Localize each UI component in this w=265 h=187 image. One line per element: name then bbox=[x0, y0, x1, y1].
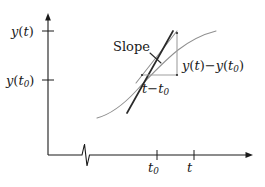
delta-t-label: t−t0 bbox=[142, 82, 169, 97]
glyph-subscript-zero: 0 bbox=[163, 87, 169, 97]
y-axis-label-y-of-t0: y(t0) bbox=[6, 74, 34, 89]
glyph-t: t bbox=[187, 160, 192, 175]
delta-y-label: y(t)−y(t0) bbox=[182, 59, 244, 74]
x-tick-label-t0: t0 bbox=[148, 161, 159, 176]
glyph-y: y bbox=[216, 58, 223, 73]
glyph-close-paren: ) bbox=[239, 58, 244, 73]
x-axis-arrow-icon bbox=[246, 152, 254, 158]
glyph-close-paren: ) bbox=[29, 24, 34, 39]
glyph-subscript-zero: 0 bbox=[153, 166, 159, 176]
slope-diagram-figure: y(t) y(t0) Slope y(t)−y(t0) t−t0 t0 t bbox=[0, 0, 265, 187]
glyph-close-paren: ) bbox=[29, 73, 34, 88]
diagram-canvas bbox=[0, 0, 265, 187]
y-axis-label-y-of-t: y(t) bbox=[11, 25, 34, 38]
y-axis bbox=[45, 13, 51, 155]
x-tick-label-t: t bbox=[187, 161, 192, 174]
glyph-minus: − bbox=[205, 58, 216, 73]
y-axis-arrow-icon bbox=[45, 13, 51, 21]
glyph-minus: − bbox=[147, 81, 158, 96]
slope-label: Slope bbox=[113, 40, 150, 53]
